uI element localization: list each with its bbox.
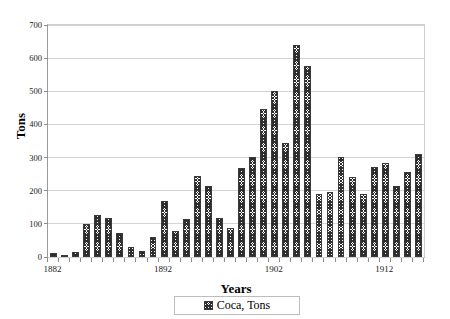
x-tick-mark (279, 258, 280, 262)
x-tick-label: 1892 (154, 264, 172, 274)
bar (72, 252, 79, 257)
bar (404, 172, 411, 257)
x-tick-mark (124, 258, 125, 262)
x-tick-mark (102, 258, 103, 262)
bar (128, 247, 135, 257)
x-tick-mark (158, 258, 159, 262)
x-tick-mark (412, 258, 413, 262)
x-tick-mark (357, 258, 358, 262)
bar (382, 163, 389, 257)
bar (227, 228, 234, 257)
plot-area: 0100200300400500600700 (47, 24, 425, 258)
x-tick-mark (169, 258, 170, 262)
bars-container (48, 25, 424, 257)
x-tick-mark (312, 258, 313, 262)
bar (105, 218, 112, 257)
y-tick-label: 200 (29, 186, 42, 196)
bar (61, 255, 68, 257)
x-tick-mark (235, 258, 236, 262)
x-axis-title: Years (47, 281, 425, 297)
bar (360, 194, 367, 257)
bar (260, 109, 267, 257)
bar (338, 157, 345, 257)
x-tick-mark (202, 258, 203, 262)
x-axis-ticks: 1882189219021912 (47, 258, 425, 264)
y-tick-label: 300 (29, 153, 42, 163)
x-tick-mark (346, 258, 347, 262)
x-tick-mark (379, 258, 380, 262)
bar (116, 233, 123, 257)
bar (194, 176, 201, 257)
bar (161, 201, 168, 257)
x-tick-mark (368, 258, 369, 262)
legend-swatch-icon (204, 301, 213, 310)
x-tick-mark (135, 258, 136, 262)
bar (415, 154, 422, 257)
bar (371, 167, 378, 257)
bar (50, 253, 57, 257)
x-tick-mark (47, 258, 48, 262)
x-tick-mark (80, 258, 81, 262)
bar (150, 237, 157, 257)
x-tick-mark (301, 258, 302, 262)
x-tick-mark (423, 258, 424, 262)
bar (293, 45, 300, 257)
x-tick-label: 1882 (44, 264, 62, 274)
x-tick-mark (323, 258, 324, 262)
bar (349, 177, 356, 257)
x-tick-mark (113, 258, 114, 262)
x-tick-mark (290, 258, 291, 262)
bar (282, 143, 289, 257)
legend-label: Coca, Tons (217, 298, 271, 313)
x-tick-label: 1912 (375, 264, 393, 274)
bar (327, 192, 334, 257)
y-tick-label: 700 (29, 20, 42, 30)
x-tick-mark (69, 258, 70, 262)
bar (83, 224, 90, 257)
bar (183, 219, 190, 257)
x-tick-mark (180, 258, 181, 262)
y-tick-label: 400 (29, 119, 42, 129)
x-tick-mark (246, 258, 247, 262)
y-tick-label: 500 (29, 86, 42, 96)
bar (94, 215, 101, 257)
x-tick-mark (213, 258, 214, 262)
x-tick-mark (335, 258, 336, 262)
bar-chart: Tons 0100200300400500600700 188218921902… (0, 0, 450, 319)
x-tick-mark (401, 258, 402, 262)
bar (316, 194, 323, 257)
x-tick-mark (257, 258, 258, 262)
x-tick-mark (268, 258, 269, 262)
bar (139, 251, 146, 257)
x-tick-mark (91, 258, 92, 262)
bar (393, 186, 400, 257)
x-tick-mark (58, 258, 59, 262)
y-axis-title: Tons (13, 91, 29, 161)
bar (205, 186, 212, 257)
x-tick-mark (147, 258, 148, 262)
x-tick-mark (191, 258, 192, 262)
bar (271, 91, 278, 257)
y-tick-label: 0 (38, 252, 42, 262)
bar (216, 218, 223, 257)
x-tick-label: 1902 (265, 264, 283, 274)
legend: Coca, Tons (174, 296, 300, 315)
y-tick-label: 600 (29, 53, 42, 63)
bar (172, 231, 179, 257)
bar (304, 66, 311, 257)
x-tick-mark (224, 258, 225, 262)
x-tick-mark (390, 258, 391, 262)
bar (238, 168, 245, 257)
bar (249, 157, 256, 257)
y-tick-label: 100 (29, 219, 42, 229)
